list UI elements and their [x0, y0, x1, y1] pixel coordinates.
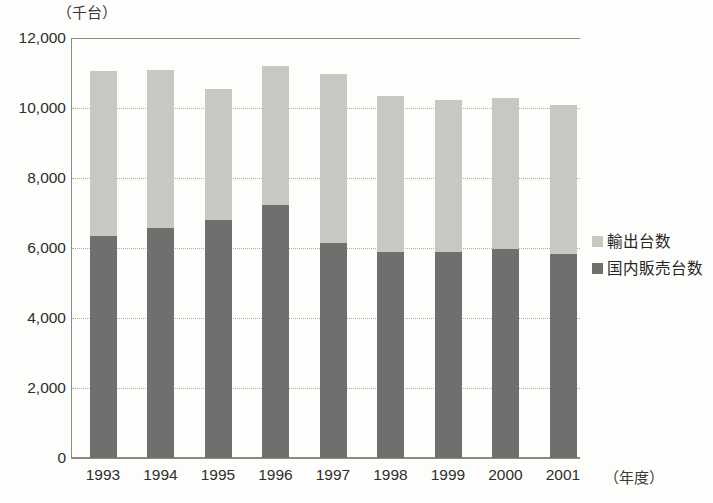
x-axis-tick-1996: 1996 — [246, 466, 306, 484]
y-axis-tick-2000: 2,000 — [2, 379, 66, 397]
bar-segment-export-1998 — [377, 96, 404, 252]
bar-group-1995 — [205, 89, 232, 458]
bar-segment-domestic-1993 — [90, 236, 117, 458]
x-axis-tick-1998: 1998 — [361, 466, 421, 484]
bar-group-1994 — [147, 70, 174, 458]
bar-segment-export-1995 — [205, 89, 232, 220]
y-axis-tick-4000: 4,000 — [2, 309, 66, 327]
legend-label-export: 輸出台数 — [607, 234, 671, 250]
legend-swatch-icon-domestic — [592, 263, 603, 274]
bar-group-2000 — [492, 98, 519, 458]
bar-group-2001 — [550, 105, 577, 458]
bar-segment-domestic-2000 — [492, 249, 519, 458]
bar-segment-export-1994 — [147, 70, 174, 228]
bar-group-1996 — [262, 66, 289, 458]
bar-segment-domestic-1998 — [377, 252, 404, 458]
x-axis-tick-1997: 1997 — [303, 466, 363, 484]
x-axis-tick-1994: 1994 — [131, 466, 191, 484]
legend-item-export: 輸出台数 — [592, 228, 713, 255]
bar-segment-domestic-1996 — [262, 205, 289, 458]
bar-segment-export-1996 — [262, 66, 289, 205]
y-axis-tick-8000: 8,000 — [2, 169, 66, 187]
x-axis-tick-1995: 1995 — [188, 466, 248, 484]
bar-segment-export-1997 — [320, 74, 347, 243]
bar-segment-domestic-1995 — [205, 220, 232, 458]
bar-segment-export-1999 — [435, 100, 462, 252]
chart-legend: 輸出台数 国内販売台数 — [592, 228, 713, 282]
bar-segment-export-2000 — [492, 98, 519, 250]
chart-page: （千台） 12,00010,0008,0006,0004,0002,0000 1… — [0, 0, 713, 503]
y-axis-unit-label: （千台） — [57, 1, 117, 22]
bar-segment-domestic-2001 — [550, 254, 577, 458]
x-axis-tick-2001: 2001 — [533, 466, 593, 484]
bar-segment-export-1993 — [90, 71, 117, 236]
y-axis-tick-0: 0 — [2, 449, 66, 467]
bar-group-1998 — [377, 96, 404, 458]
y-axis-tick-12000: 12,000 — [2, 29, 66, 47]
bar-group-1993 — [90, 71, 117, 458]
x-axis-unit-label: （年度） — [604, 466, 664, 487]
y-axis-tick-labels: 12,00010,0008,0006,0004,0002,0000 — [0, 0, 66, 503]
bar-group-1999 — [435, 100, 462, 458]
bar-segment-domestic-1994 — [147, 228, 174, 458]
bar-group-1997 — [320, 74, 347, 458]
bar-segment-domestic-1999 — [435, 252, 462, 458]
bar-segment-export-2001 — [550, 105, 577, 254]
y-axis-tick-6000: 6,000 — [2, 239, 66, 257]
legend-label-domestic: 国内販売台数 — [607, 261, 703, 277]
x-axis-tick-2000: 2000 — [476, 466, 536, 484]
y-axis-tick-10000: 10,000 — [2, 99, 66, 117]
x-axis-tick-1999: 1999 — [418, 466, 478, 484]
legend-swatch-icon-export — [592, 236, 603, 247]
x-axis-tick-1993: 1993 — [73, 466, 133, 484]
bar-segment-domestic-1997 — [320, 243, 347, 458]
bar-series-layer — [71, 38, 580, 458]
legend-item-domestic: 国内販売台数 — [592, 255, 713, 282]
